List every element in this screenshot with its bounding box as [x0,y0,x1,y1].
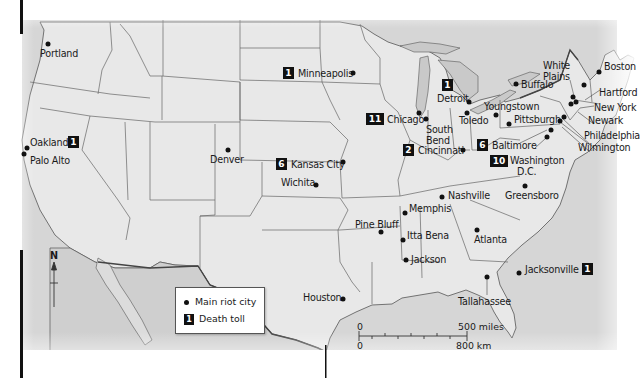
city-marker [424,117,429,122]
city-label: Cincinnati [418,145,464,156]
city-label: Greensboro [505,190,559,201]
city-marker [597,70,602,75]
city-label: Boston [604,61,636,72]
compass-north-label: N [50,250,58,261]
death-toll-icon: 1 [184,314,194,325]
city-label: South [426,124,453,135]
city-label: Jacksonville [525,264,579,275]
city-marker [545,135,550,140]
legend-main-riot-city: Main riot city [184,296,256,307]
city-label: Detroit [437,93,469,104]
city-marker [494,113,499,118]
city-marker [341,297,346,302]
city-marker [514,82,519,87]
city-marker [46,42,51,47]
city-label: Palo Alto [30,155,70,166]
city-marker [351,71,356,76]
city-label: White [543,60,570,71]
death-toll-badge: 6 [477,139,488,151]
death-toll-badge: 1 [68,136,79,148]
city-marker [558,119,563,124]
city-label: Jackson [411,254,446,265]
city-label: Toledo [459,115,488,126]
city-marker [417,111,422,116]
scale-km-zero: 0 [357,340,363,351]
city-label: Atlanta [474,234,507,245]
city-label: Memphis [409,203,451,214]
legend-death-toll: 1Death toll [184,313,245,325]
dot-icon [184,300,189,305]
city-label: Kansas City [291,159,345,170]
city-label: Tallahassee [458,296,511,307]
city-marker [440,195,445,200]
death-toll-badge: 1 [582,263,593,275]
city-label: Denver [210,154,244,165]
city-marker [461,148,466,153]
death-toll-badge: 2 [403,144,414,156]
city-label: Wichita [281,177,315,188]
city-label: Houston [303,292,341,303]
city-label: Chicago [387,114,424,125]
city-label: Oakland [30,137,68,148]
city-marker [403,211,408,216]
scale-km-label: 800 km [456,340,491,351]
city-label: New York [594,102,636,113]
city-label: Minneapolis [298,68,353,79]
city-label: Hartford [599,87,637,98]
death-toll-badge: 11 [366,113,384,125]
scale-miles-label: 500 miles [458,321,504,332]
death-toll-badge: 1 [442,79,453,91]
city-marker [475,228,480,233]
city-label: Philadelphia [584,130,640,141]
page-rule-bottom [20,250,23,378]
city-label: Nashville [448,190,490,201]
city-marker [574,100,579,105]
city-label: Washington [510,155,564,166]
city-marker [562,115,567,120]
city-marker [517,271,522,276]
city-label: Portland [40,48,78,59]
city-marker [226,148,231,153]
city-marker [507,122,512,127]
city-marker [22,152,27,157]
death-toll-badge: 10 [490,155,508,167]
city-marker [485,275,490,280]
leader-line [325,345,327,378]
page-rule-top [20,0,23,34]
city-label: Wilmington [578,142,631,153]
city-marker [582,83,587,88]
city-label: Itta Bena [407,230,449,241]
city-marker [523,184,528,189]
city-marker [25,146,30,151]
scale-miles-zero: 0 [357,321,363,332]
city-marker [401,238,406,243]
city-label: D.C. [517,166,536,177]
city-label: Youngstown [484,101,539,112]
city-marker [569,102,574,107]
city-marker [549,128,554,133]
city-marker [404,258,409,263]
city-marker [379,230,384,235]
city-marker [314,183,319,188]
map-legend: Main riot city 1Death toll [175,287,265,334]
city-marker [467,100,472,105]
death-toll-badge: 6 [276,158,287,170]
city-marker [341,160,346,165]
city-label: Plains [543,71,570,82]
city-label: Pine Bluff [355,219,398,230]
city-label: Newark [588,115,623,126]
city-label: Baltimore [492,140,537,151]
city-label: Pittsburgh [514,114,561,125]
death-toll-badge: 1 [283,67,294,79]
